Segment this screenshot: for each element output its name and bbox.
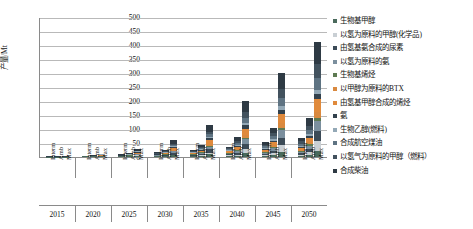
bar-segment [278,98,285,106]
bar-segment [306,118,313,125]
x-tick-label: Amb [306,159,313,205]
chart-figure: 500450400350300250200150100500 产量/Mt Int… [0,0,473,229]
stacked-bar [278,73,285,157]
bar-group [291,18,327,157]
legend-item[interactable]: 生物基甲醇 [333,16,473,30]
x-tick-label: Interm [262,159,269,205]
x-tick-label: Amb [270,159,277,205]
bar-group [219,18,255,157]
x-tick-group: IntermAmbMax [39,159,75,205]
x-tick-label: Amb [54,159,61,205]
x-tick-label: Interm [190,159,197,205]
legend-item[interactable]: 以氢为原料的甲醇(化学品) [333,30,473,44]
bar-segment [242,101,249,112]
legend-swatch-icon [333,101,337,105]
x-tick-group: IntermAmbMax [291,159,327,205]
x-tick-label: Max [314,159,321,205]
bar-group [184,18,220,157]
x-tick-group: IntermAmbMax [147,159,183,205]
bar-group [76,18,112,157]
x-axis-year-labels: 20152020202520302035204020452050 [39,205,327,222]
bar-segment [278,114,285,123]
x-tick-label: Max [170,159,177,205]
legend-item[interactable]: 以氢为原料的氨 [333,57,473,71]
legend-swatch-icon [333,169,337,173]
legend-item[interactable]: 由氢基氨合成的尿素 [333,43,473,57]
bar-group [112,18,148,157]
legend-item[interactable]: 生物基烯烃 [333,70,473,84]
bar-segment [278,89,285,99]
x-tick-label: Amb [198,159,205,205]
x-tick-group: IntermAmbMax [255,159,291,205]
x-tick-group: IntermAmbMax [111,159,147,205]
legend-swatch-icon [333,87,337,91]
year-label: 2015 [39,206,75,222]
x-tick-label: Interm [298,159,305,205]
bar-group [40,18,76,157]
x-tick-label: Max [134,159,141,205]
x-tick-label: Amb [234,159,241,205]
legend-swatch-icon [333,33,337,37]
year-label: 2050 [291,206,327,222]
legend-item[interactable]: 合成柴油 [333,166,473,180]
bar-segment [314,78,321,90]
legend-label: 生物基烯烃 [340,70,375,79]
legend-item[interactable]: 由氢基甲醇合成的烯烃 [333,98,473,112]
x-tick-label: Max [206,159,213,205]
year-label: 2020 [75,206,111,222]
legend-label: 以甲醇为原料的BTX [340,84,404,93]
x-tick-label: Interm [154,159,161,205]
bar-segment [314,121,321,131]
plot-area [39,18,327,158]
bar-group [148,18,184,157]
x-tick-group: IntermAmbMax [219,159,255,205]
legend-item[interactable]: 合成航空煤油 [333,138,473,152]
x-tick-label: Interm [46,159,53,205]
bar-segment [314,64,321,78]
legend-label: 合成柴油 [340,166,368,175]
legend-swatch-icon [333,141,337,145]
x-tick-label: Interm [226,159,233,205]
legend-label: 由氢基氨合成的尿素 [340,43,403,52]
x-tick-label: Amb [126,159,133,205]
x-tick-group: IntermAmbMax [183,159,219,205]
legend-swatch-icon [333,128,337,132]
legend-swatch-icon [333,46,337,50]
legend-label: 生物乙醇(燃料) [340,125,387,134]
bar-segment [278,73,285,89]
legend-item[interactable]: 生物乙醇(燃料) [333,125,473,139]
bar-segment [278,130,285,137]
legend-item[interactable]: 以氢气为原料的甲醇（燃料） [333,152,473,166]
legend-label: 氨 [340,111,347,120]
x-axis-scenario-labels: IntermAmbMaxIntermAmbMaxIntermAmbMaxInte… [39,159,327,205]
x-tick-label: Interm [82,159,89,205]
legend-swatch-icon [333,155,337,159]
legend-label: 以氢为原料的甲醇(化学品) [340,30,422,39]
legend-item[interactable]: 氨 [333,111,473,125]
legend: 生物基甲醇以氢为原料的甲醇(化学品)由氢基氨合成的尿素以氢为原料的氨生物基烯烃以… [333,16,473,179]
legend-label: 由氢基甲醇合成的烯烃 [340,98,410,107]
x-tick-label: Interm [118,159,125,205]
legend-swatch-icon [333,60,337,64]
legend-swatch-icon [333,114,337,118]
x-tick-label: Max [62,159,69,205]
legend-label: 生物基甲醇 [340,16,375,25]
bar-segment [314,99,321,112]
x-tick-label: Max [98,159,105,205]
x-tick-group: IntermAmbMax [75,159,111,205]
x-tick-label: Max [278,159,285,205]
year-label: 2035 [183,206,219,222]
legend-swatch-icon [333,73,337,77]
year-label: 2025 [111,206,147,222]
legend-item[interactable]: 以甲醇为原料的BTX [333,84,473,98]
legend-label: 以氢为原料的氨 [340,57,389,66]
legend-label: 以氢气为原料的甲醇（燃料） [340,152,431,161]
x-tick-label: Max [242,159,249,205]
x-tick-label: Amb [162,159,169,205]
bar-segment [314,131,321,141]
bar-group [255,18,291,157]
y-axis-label: 产量/Mt [0,45,9,70]
legend-swatch-icon [333,19,337,23]
year-label: 2045 [255,206,291,222]
year-label: 2040 [219,206,255,222]
